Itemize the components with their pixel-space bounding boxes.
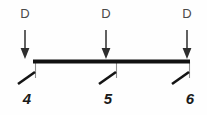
support-slash-6 <box>172 72 189 84</box>
node-label-6: 6 <box>177 91 203 107</box>
load-label-2: D <box>94 7 118 21</box>
load-label-3: D <box>175 7 199 21</box>
support-slash-4 <box>18 72 35 84</box>
beam-diagram-figure: D D D 4 5 6 <box>0 0 207 115</box>
load-label-1: D <box>13 7 37 21</box>
load-arrow-2 <box>102 30 111 59</box>
load-arrow-group <box>21 30 192 59</box>
load-arrow-3 <box>183 30 192 59</box>
support-slash-5 <box>99 72 116 84</box>
node-label-4: 4 <box>14 91 40 107</box>
node-label-5: 5 <box>95 91 121 107</box>
load-arrow-1 <box>21 30 30 59</box>
support-slash-group <box>18 72 189 84</box>
